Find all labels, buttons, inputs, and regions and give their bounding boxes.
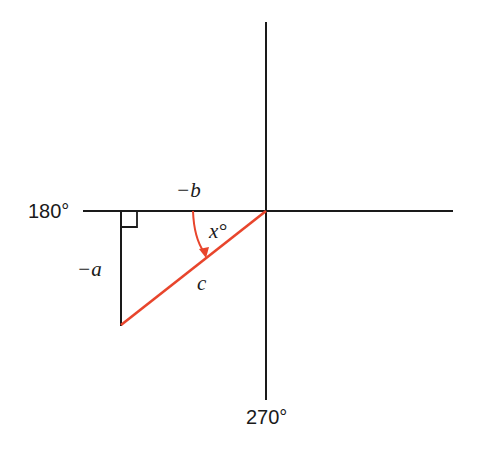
reference-triangle-diagram: 180° 270° −b −a c x° — [0, 0, 491, 456]
label-vertical-leg: −a — [77, 257, 102, 281]
right-angle-marker — [121, 211, 137, 227]
hypotenuse — [121, 211, 266, 325]
axis-label-180: 180° — [28, 200, 69, 222]
label-horizontal-leg: −b — [176, 178, 201, 202]
label-hypotenuse: c — [197, 271, 207, 295]
axis-label-270: 270° — [246, 406, 287, 428]
angle-arc — [193, 211, 204, 252]
label-angle: x° — [208, 219, 227, 243]
